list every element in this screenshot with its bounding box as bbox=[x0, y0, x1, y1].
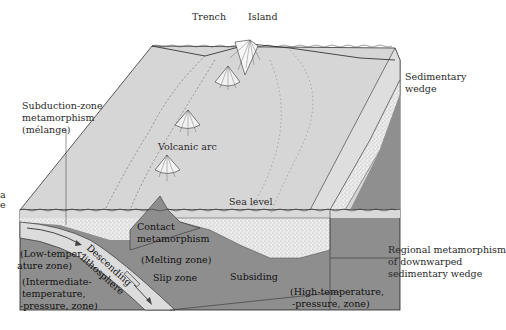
label-high-temp-2: -pressure, zone) bbox=[292, 298, 370, 309]
label-regional-2: of downwarped bbox=[388, 256, 462, 267]
label-contact-1: Contact bbox=[137, 221, 175, 232]
label-intermediate-2: temperature, bbox=[22, 288, 85, 299]
label-island: Island bbox=[248, 11, 278, 22]
label-subduction-1: Subduction-zone bbox=[22, 100, 103, 111]
label-low-temp-1: (Low-temper- bbox=[20, 248, 85, 259]
label-subduction-2: metamorphism bbox=[22, 112, 95, 123]
label-sedimentary-wedge-2: wedge bbox=[405, 83, 437, 94]
label-volcanic-arc: Volcanic arc bbox=[158, 141, 217, 152]
label-subsiding: Subsiding bbox=[230, 271, 278, 282]
label-sea-level: Sea level bbox=[229, 196, 273, 207]
label-intermediate-3: -pressure, zone) bbox=[20, 300, 98, 311]
label-low-temp-2: ature zone) bbox=[17, 260, 72, 271]
label-contact-2: metamorphism bbox=[137, 233, 210, 244]
front-water bbox=[20, 210, 400, 218]
label-intermediate-1: (Intermediate- bbox=[22, 276, 92, 287]
label-edge-fragment-2: e bbox=[0, 199, 6, 210]
label-trench: Trench bbox=[192, 11, 226, 22]
label-slip-zone: Slip zone bbox=[153, 272, 197, 283]
label-regional-3: sedimentary wedge bbox=[388, 268, 482, 279]
label-subduction-3: (mélange) bbox=[22, 124, 71, 135]
label-sedimentary-wedge-1: Sedimentary bbox=[405, 71, 466, 82]
label-regional-1: Regional metamorphism bbox=[388, 244, 506, 255]
label-melting-zone: (Melting zone) bbox=[141, 254, 211, 265]
label-high-temp-1: (High-temperature, bbox=[290, 286, 384, 297]
